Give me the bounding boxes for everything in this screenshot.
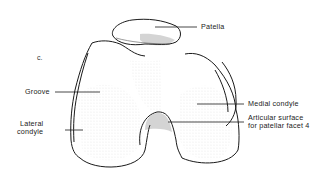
articular-surface-label-line2: for patellar facet 4 <box>248 122 310 130</box>
femur-patella-diagram: c. Patella Groove Lateral condyle Medial… <box>0 0 330 178</box>
panel-letter: c. <box>37 54 42 61</box>
patella-shape <box>112 19 180 45</box>
femur-stipple <box>78 60 232 160</box>
patella-label: Patella <box>201 23 224 31</box>
medial-condyle-label: Medial condyle <box>248 100 299 108</box>
groove-label: Groove <box>25 88 50 96</box>
lateral-condyle-label-line2: condyle <box>17 128 43 136</box>
